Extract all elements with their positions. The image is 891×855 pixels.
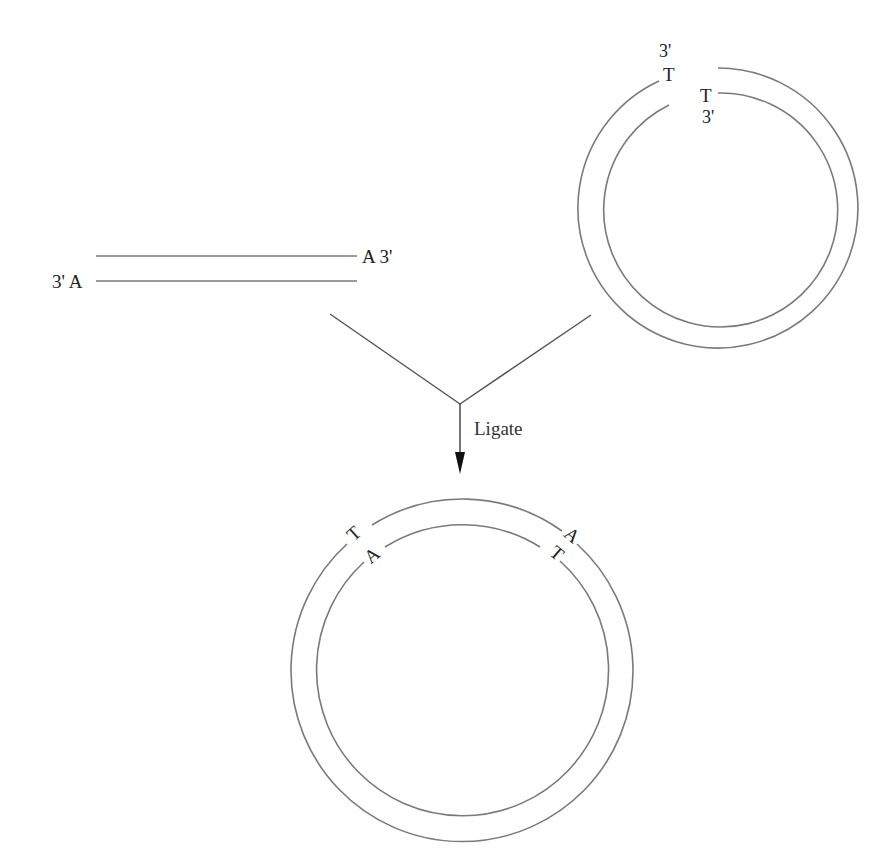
vector-outer-strand [578,68,858,348]
vector-inner-3prime-label: 3' [702,107,714,127]
ligate-arrow: Ligate [455,404,523,474]
converging-lines [330,314,591,404]
ligate-label: Ligate [474,418,523,439]
product-left-outer-t: T [342,521,365,545]
t-vector: 3' T T 3' [578,41,858,348]
vector-outer-t-overhang: T [663,64,675,85]
product-outer-strand-main [291,544,633,842]
product-inner-strand-top [385,525,540,547]
insert-top-overhang-label: A 3' [362,246,392,267]
connector-left [330,314,460,404]
product-left-inner-a: A [360,542,384,567]
product-outer-strand-top [372,499,562,531]
connector-right [460,315,591,404]
vector-inner-t-overhang: T [700,85,712,106]
vector-outer-3prime-label: 3' [659,41,671,61]
product-inner-strand-main [317,561,609,816]
product-right-inner-t: T [546,541,569,565]
vector-inner-strand [604,93,838,327]
recombinant-plasmid: T A A T [291,499,633,841]
arrow-down-icon [455,452,465,474]
ta-cloning-diagram: A 3' 3' A 3' T T 3' Ligate T A A [0,0,891,855]
linear-insert: A 3' 3' A [52,246,392,292]
insert-bottom-overhang-label: 3' A [52,271,83,292]
